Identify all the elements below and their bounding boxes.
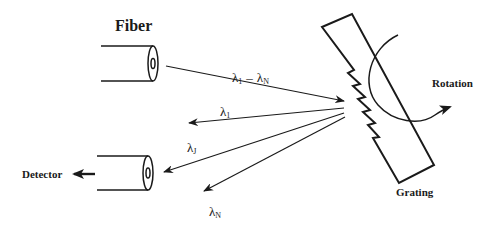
lambda-1-label: λ1 <box>220 104 230 120</box>
fiber-label: Fiber <box>115 17 152 34</box>
grating-diagram: Fiber Detector λ1–λN λ1 λJ λN Rotation G… <box>0 0 489 229</box>
incident-beam <box>166 66 344 101</box>
lambda-j-label: λJ <box>187 140 196 156</box>
fiber-core-icon <box>146 168 150 178</box>
fiber-core-icon <box>151 59 155 69</box>
incident-beam-label: λ1–λN <box>232 70 269 86</box>
diffraction-grating <box>322 14 434 183</box>
rotation-label: Rotation <box>432 77 473 89</box>
diffracted-beam-n <box>204 117 345 191</box>
grating-label: Grating <box>396 186 434 198</box>
output-fiber <box>97 156 153 190</box>
input-fiber <box>101 46 158 81</box>
detector-label: Detector <box>22 168 62 180</box>
lambda-n-label: λN <box>209 204 221 220</box>
